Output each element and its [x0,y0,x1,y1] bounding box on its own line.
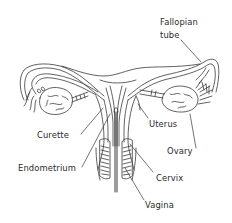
diagram-illustration [0,0,232,223]
cervix-vagina [96,139,136,180]
leader-curette [81,108,103,134]
label-uterus: Uterus [149,119,177,129]
fallopian-tube-left [20,64,104,100]
label-curette: Curette [37,130,69,140]
ovary-left [24,87,88,114]
leader-fallopian-tube [181,40,201,62]
leader-uterus [138,104,148,118]
label-fallopian-tube-line1: Fallopian [160,17,198,27]
anatomy-diagram: Fallopian tube Uterus Ovary Curette Endo… [0,0,232,223]
label-endometrium: Endometrium [18,163,76,173]
uterine-fundus [100,80,136,83]
curette [114,108,118,193]
leader-vagina [125,168,144,200]
label-cervix: Cervix [156,173,183,183]
label-vagina: Vagina [145,200,174,210]
broad-ligament-top [62,64,200,76]
label-ovary: Ovary [167,146,193,156]
leader-ovary [190,114,196,148]
label-fallopian-tube-line2: tube [160,30,179,40]
